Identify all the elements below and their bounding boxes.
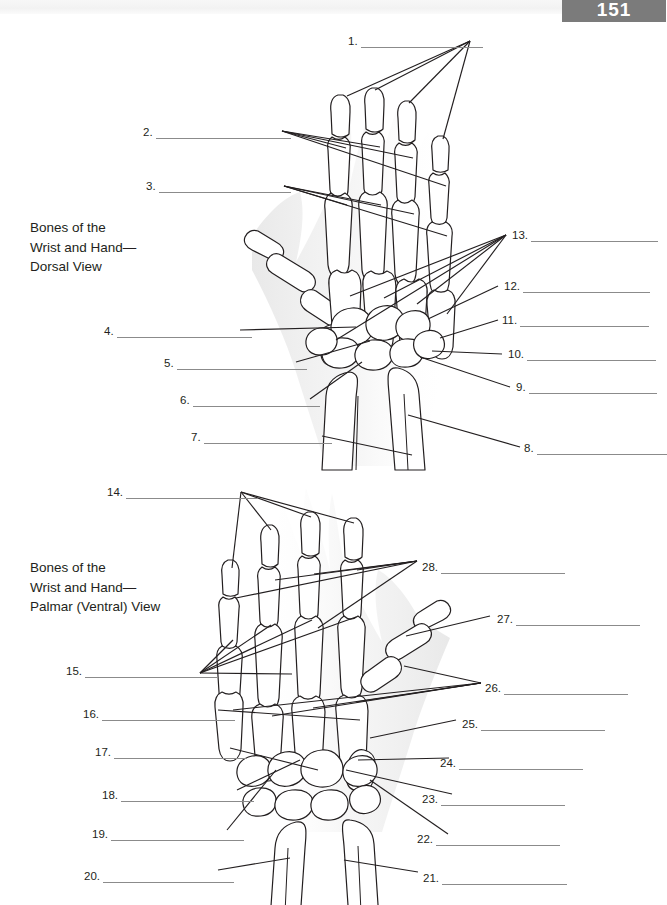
- answer-label-18[interactable]: 18.: [102, 789, 254, 802]
- answer-blank-line[interactable]: [114, 747, 247, 759]
- answer-blank-line[interactable]: [527, 349, 656, 361]
- answer-label-10[interactable]: 10.: [508, 348, 656, 361]
- answer-label-28[interactable]: 28.: [422, 561, 565, 574]
- answer-blank-line[interactable]: [159, 181, 291, 193]
- answer-label-number: 9.: [516, 381, 526, 394]
- answer-label-1[interactable]: 1.: [348, 35, 483, 48]
- answer-label-number: 25.: [462, 718, 478, 731]
- answer-label-24[interactable]: 24.: [440, 757, 583, 770]
- answer-label-14[interactable]: 14.: [107, 486, 258, 499]
- answer-label-7[interactable]: 7.: [191, 431, 332, 444]
- caption-dorsal-view: Bones of the Wrist and Hand— Dorsal View: [30, 218, 136, 277]
- answer-label-number: 19.: [92, 828, 108, 841]
- answer-label-number: 7.: [191, 431, 201, 444]
- answer-label-number: 15.: [66, 665, 82, 678]
- caption-palmar-view: Bones of the Wrist and Hand— Palmar (Ven…: [30, 558, 160, 617]
- answer-blank-line[interactable]: [516, 614, 640, 626]
- answer-label-6[interactable]: 6.: [180, 394, 320, 407]
- answer-label-number: 18.: [102, 789, 118, 802]
- answer-blank-line[interactable]: [436, 834, 560, 846]
- answer-blank-line[interactable]: [481, 719, 605, 731]
- answer-label-11[interactable]: 11.: [502, 314, 649, 327]
- answer-blank-line[interactable]: [441, 794, 565, 806]
- answer-label-17[interactable]: 17.: [95, 746, 247, 759]
- answer-label-number: 12.: [504, 280, 520, 293]
- answer-blank-line[interactable]: [361, 36, 483, 48]
- answer-label-number: 4.: [104, 325, 114, 338]
- answer-label-16[interactable]: 16.: [83, 708, 235, 721]
- answer-label-3[interactable]: 3.: [146, 180, 291, 193]
- answer-label-number: 22.: [417, 833, 433, 846]
- answer-label-15[interactable]: 15.: [66, 665, 217, 678]
- answer-blank-line[interactable]: [441, 562, 565, 574]
- answer-label-25[interactable]: 25.: [462, 718, 605, 731]
- answer-label-23[interactable]: 23.: [422, 793, 565, 806]
- answer-blank-line[interactable]: [442, 873, 567, 885]
- answer-label-13[interactable]: 13.: [512, 229, 658, 242]
- answer-label-number: 17.: [95, 746, 111, 759]
- answer-blank-line[interactable]: [204, 432, 332, 444]
- answer-blank-line[interactable]: [117, 326, 252, 338]
- answer-label-2[interactable]: 2.: [143, 126, 291, 139]
- answer-label-number: 11.: [502, 314, 517, 327]
- answer-label-number: 1.: [348, 35, 358, 48]
- answer-blank-line[interactable]: [529, 382, 657, 394]
- answer-blank-line[interactable]: [459, 758, 583, 770]
- answer-label-number: 14.: [107, 486, 123, 499]
- answer-label-number: 28.: [422, 561, 438, 574]
- answer-label-number: 6.: [180, 394, 190, 407]
- answer-blank-line[interactable]: [102, 709, 235, 721]
- answer-blank-line[interactable]: [531, 230, 658, 242]
- answer-label-20[interactable]: 20.: [84, 870, 234, 883]
- answer-label-number: 16.: [83, 708, 99, 721]
- answer-label-number: 2.: [143, 126, 153, 139]
- answer-label-number: 3.: [146, 180, 156, 193]
- answer-label-number: 24.: [440, 757, 456, 770]
- forearm-bones-palmar: [269, 820, 380, 905]
- answer-blank-line[interactable]: [523, 281, 650, 293]
- answer-blank-line[interactable]: [111, 829, 244, 841]
- answer-blank-line[interactable]: [121, 790, 254, 802]
- answer-label-number: 10.: [508, 348, 524, 361]
- answer-label-number: 20.: [84, 870, 100, 883]
- answer-label-number: 8.: [524, 442, 534, 455]
- answer-label-19[interactable]: 19.: [92, 828, 244, 841]
- answer-blank-line[interactable]: [504, 683, 628, 695]
- answer-label-number: 13.: [512, 229, 528, 242]
- answer-blank-line[interactable]: [85, 666, 217, 678]
- answer-label-9[interactable]: 9.: [516, 381, 657, 394]
- answer-label-8[interactable]: 8.: [524, 442, 667, 455]
- answer-blank-line[interactable]: [537, 443, 667, 455]
- answer-label-27[interactable]: 27.: [497, 613, 640, 626]
- answer-blank-line[interactable]: [177, 358, 307, 370]
- answer-label-number: 26.: [485, 682, 501, 695]
- answer-blank-line[interactable]: [103, 871, 234, 883]
- answer-label-21[interactable]: 21.: [423, 872, 567, 885]
- answer-label-5[interactable]: 5.: [164, 357, 307, 370]
- answer-blank-line[interactable]: [193, 395, 320, 407]
- answer-blank-line[interactable]: [126, 487, 258, 499]
- answer-label-number: 5.: [164, 357, 174, 370]
- answer-label-number: 21.: [423, 872, 439, 885]
- answer-label-4[interactable]: 4.: [104, 325, 252, 338]
- answer-label-26[interactable]: 26.: [485, 682, 628, 695]
- answer-label-22[interactable]: 22.: [417, 833, 560, 846]
- answer-blank-line[interactable]: [520, 315, 649, 327]
- answer-label-12[interactable]: 12.: [504, 280, 650, 293]
- answer-label-number: 27.: [497, 613, 513, 626]
- answer-label-number: 23.: [422, 793, 438, 806]
- answer-blank-line[interactable]: [156, 127, 291, 139]
